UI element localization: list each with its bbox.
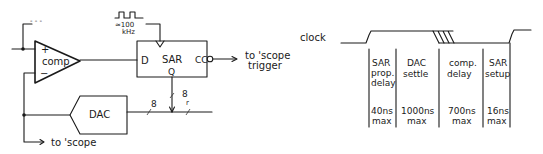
interval-value: 40ns (371, 106, 393, 116)
interval-name: comp. (449, 58, 477, 68)
interval-unit: max (452, 116, 472, 126)
interval-name: delay (447, 69, 472, 79)
clock-pulse-icon (115, 12, 143, 18)
comparator-minus-label: − (40, 68, 48, 79)
interval-unit: max (407, 116, 427, 126)
interval-name: SAR (372, 58, 390, 68)
interval-unit: max (372, 116, 392, 126)
interval-dac-settle: DAC settle 1000ns max (401, 58, 435, 126)
plus-input-stub: - - - (30, 17, 43, 25)
interval-unit: max (487, 116, 507, 126)
interval-value: 1000ns (401, 106, 435, 116)
interval-comp-delay: comp. delay 700ns max (447, 58, 477, 126)
comparator-label: comp (42, 56, 70, 67)
clock-input-triangle-icon (156, 41, 164, 47)
trigger-label-line2: trigger (248, 60, 283, 71)
clock-signal-label: clock (300, 32, 326, 43)
sar-label: SAR (162, 54, 182, 65)
interval-sar-prop-delay: SAR prop. delay 40ns max (371, 58, 396, 126)
dac-block: DAC (70, 96, 127, 134)
bus-width-q: 8 (182, 89, 188, 99)
interval-name: SAR (489, 58, 507, 68)
sar-q-pin: Q (168, 67, 175, 77)
bus-width-dac: 8 (151, 99, 157, 109)
to-scope-label: to 'scope (51, 137, 96, 148)
bus-width-q-sub: r (186, 99, 189, 107)
clock-freq-line2: kHz (122, 28, 135, 36)
comparator-plus-label: + (41, 44, 49, 55)
interval-name: prop. (371, 68, 394, 78)
interval-name: setup (485, 69, 510, 79)
plus-feedback-wire (23, 24, 32, 49)
sar-cc-pin: CC (195, 55, 208, 65)
sar-d-pin: D (141, 55, 149, 66)
clock-waveform (341, 31, 433, 43)
interval-value: 16ns (487, 106, 509, 116)
dac-label: DAC (89, 109, 110, 120)
minus-input-wire (24, 73, 43, 142)
interval-name: DAC (407, 58, 426, 68)
comparator: + − comp (35, 41, 80, 83)
schematic: + − comp - - - to 'scope DAC 8 D (12, 12, 290, 148)
interval-name: delay (371, 78, 396, 88)
hatched-transition (433, 31, 454, 43)
sar-block: D SAR Q CC (137, 41, 213, 77)
clock-wire (146, 24, 160, 41)
sar-adc-diagram: + − comp - - - to 'scope DAC 8 D (0, 0, 543, 154)
interval-value: 700ns (448, 106, 476, 116)
interval-sar-setup: SAR setup 16ns max (485, 58, 510, 126)
interval-name: settle (403, 69, 429, 79)
inversion-bubble (207, 56, 213, 62)
timing-diagram: clock SAR prop. delay 40ns max DAC settl… (300, 30, 531, 127)
